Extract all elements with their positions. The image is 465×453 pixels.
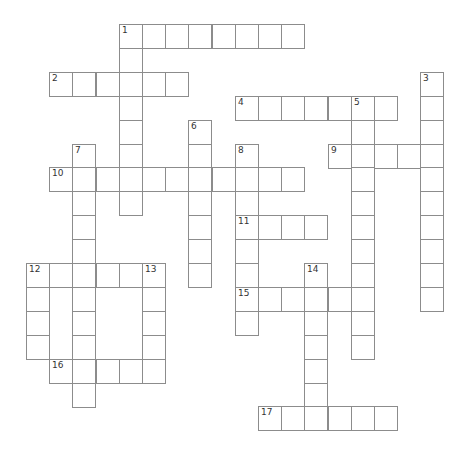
crossword-cell[interactable] bbox=[119, 359, 143, 384]
crossword-cell[interactable] bbox=[304, 359, 328, 384]
crossword-cell[interactable] bbox=[72, 191, 96, 216]
crossword-cell[interactable] bbox=[351, 120, 375, 145]
crossword-cell[interactable] bbox=[119, 120, 143, 145]
crossword-cell[interactable] bbox=[119, 263, 143, 288]
crossword-cell[interactable] bbox=[212, 167, 236, 192]
crossword-cell[interactable]: 17 bbox=[258, 406, 282, 431]
crossword-cell[interactable]: 2 bbox=[49, 72, 73, 97]
crossword-cell[interactable] bbox=[281, 167, 305, 192]
crossword-cell[interactable] bbox=[96, 359, 120, 384]
crossword-cell[interactable] bbox=[351, 191, 375, 216]
crossword-cell[interactable]: 5 bbox=[351, 96, 375, 121]
crossword-cell[interactable] bbox=[188, 191, 212, 216]
crossword-cell[interactable] bbox=[397, 144, 421, 169]
crossword-cell[interactable] bbox=[188, 144, 212, 169]
crossword-cell[interactable] bbox=[119, 191, 143, 216]
crossword-cell[interactable] bbox=[420, 120, 444, 145]
crossword-cell[interactable] bbox=[165, 24, 189, 49]
crossword-cell[interactable] bbox=[304, 287, 328, 312]
crossword-cell[interactable] bbox=[119, 144, 143, 169]
crossword-cell[interactable] bbox=[235, 191, 259, 216]
crossword-cell[interactable] bbox=[165, 72, 189, 97]
crossword-cell[interactable]: 4 bbox=[235, 96, 259, 121]
crossword-cell[interactable] bbox=[351, 335, 375, 360]
crossword-cell[interactable] bbox=[72, 167, 96, 192]
crossword-cell[interactable] bbox=[119, 96, 143, 121]
crossword-cell[interactable] bbox=[142, 335, 166, 360]
crossword-cell[interactable]: 1 bbox=[119, 24, 143, 49]
crossword-cell[interactable] bbox=[258, 215, 282, 240]
crossword-cell[interactable] bbox=[374, 406, 398, 431]
crossword-cell[interactable] bbox=[212, 24, 236, 49]
crossword-cell[interactable] bbox=[72, 383, 96, 408]
crossword-cell[interactable]: 8 bbox=[235, 144, 259, 169]
crossword-cell[interactable] bbox=[188, 24, 212, 49]
crossword-cell[interactable] bbox=[188, 167, 212, 192]
crossword-cell[interactable] bbox=[281, 406, 305, 431]
crossword-cell[interactable] bbox=[119, 48, 143, 73]
crossword-cell[interactable] bbox=[235, 167, 259, 192]
crossword-cell[interactable] bbox=[142, 359, 166, 384]
crossword-cell[interactable] bbox=[304, 406, 328, 431]
crossword-cell[interactable] bbox=[281, 287, 305, 312]
crossword-cell[interactable] bbox=[420, 239, 444, 264]
crossword-cell[interactable] bbox=[328, 96, 352, 121]
crossword-cell[interactable] bbox=[26, 287, 50, 312]
crossword-cell[interactable] bbox=[188, 263, 212, 288]
crossword-cell[interactable] bbox=[420, 215, 444, 240]
crossword-cell[interactable] bbox=[235, 239, 259, 264]
crossword-cell[interactable] bbox=[351, 144, 375, 169]
crossword-cell[interactable] bbox=[420, 191, 444, 216]
crossword-cell[interactable] bbox=[351, 311, 375, 336]
crossword-cell[interactable] bbox=[420, 287, 444, 312]
crossword-cell[interactable]: 10 bbox=[49, 167, 73, 192]
crossword-cell[interactable] bbox=[304, 383, 328, 408]
crossword-cell[interactable] bbox=[281, 215, 305, 240]
crossword-cell[interactable] bbox=[304, 96, 328, 121]
crossword-cell[interactable] bbox=[235, 263, 259, 288]
crossword-cell[interactable] bbox=[26, 311, 50, 336]
crossword-cell[interactable] bbox=[235, 311, 259, 336]
crossword-cell[interactable] bbox=[96, 263, 120, 288]
crossword-cell[interactable]: 16 bbox=[49, 359, 73, 384]
crossword-cell[interactable] bbox=[188, 215, 212, 240]
crossword-cell[interactable] bbox=[72, 311, 96, 336]
crossword-cell[interactable]: 7 bbox=[72, 144, 96, 169]
crossword-cell[interactable] bbox=[49, 263, 73, 288]
crossword-cell[interactable] bbox=[258, 96, 282, 121]
crossword-cell[interactable] bbox=[281, 96, 305, 121]
crossword-cell[interactable] bbox=[72, 72, 96, 97]
crossword-cell[interactable] bbox=[119, 167, 143, 192]
crossword-cell[interactable] bbox=[328, 406, 352, 431]
crossword-cell[interactable] bbox=[96, 72, 120, 97]
crossword-cell[interactable] bbox=[72, 239, 96, 264]
crossword-cell[interactable]: 3 bbox=[420, 72, 444, 97]
crossword-cell[interactable]: 15 bbox=[235, 287, 259, 312]
crossword-cell[interactable]: 9 bbox=[328, 144, 352, 169]
crossword-cell[interactable] bbox=[142, 287, 166, 312]
crossword-cell[interactable] bbox=[351, 215, 375, 240]
crossword-cell[interactable] bbox=[72, 335, 96, 360]
crossword-cell[interactable] bbox=[165, 167, 189, 192]
crossword-cell[interactable] bbox=[304, 335, 328, 360]
crossword-cell[interactable] bbox=[420, 144, 444, 169]
crossword-cell[interactable] bbox=[351, 239, 375, 264]
crossword-cell[interactable] bbox=[328, 287, 352, 312]
crossword-cell[interactable] bbox=[142, 311, 166, 336]
crossword-cell[interactable] bbox=[235, 24, 259, 49]
crossword-cell[interactable] bbox=[351, 263, 375, 288]
crossword-cell[interactable] bbox=[72, 359, 96, 384]
crossword-cell[interactable] bbox=[351, 406, 375, 431]
crossword-cell[interactable]: 6 bbox=[188, 120, 212, 145]
crossword-cell[interactable] bbox=[374, 96, 398, 121]
crossword-cell[interactable] bbox=[420, 263, 444, 288]
crossword-cell[interactable] bbox=[304, 311, 328, 336]
crossword-cell[interactable]: 11 bbox=[235, 215, 259, 240]
crossword-cell[interactable] bbox=[119, 72, 143, 97]
crossword-cell[interactable] bbox=[142, 167, 166, 192]
crossword-cell[interactable] bbox=[281, 24, 305, 49]
crossword-cell[interactable] bbox=[420, 96, 444, 121]
crossword-cell[interactable] bbox=[96, 167, 120, 192]
crossword-cell[interactable] bbox=[351, 167, 375, 192]
crossword-cell[interactable]: 13 bbox=[142, 263, 166, 288]
